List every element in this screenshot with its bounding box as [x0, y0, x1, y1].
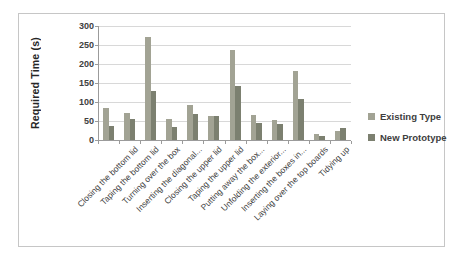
y-axis-title: Required Time (s) — [26, 24, 44, 142]
legend-item: Existing Type — [368, 111, 447, 122]
bar-new-prototype — [172, 127, 178, 140]
bar-new-prototype — [256, 123, 262, 140]
bar-new-prototype — [151, 91, 157, 140]
legend-label: New Prototype — [380, 132, 447, 143]
x-tickmark — [288, 141, 289, 144]
bar-new-prototype — [298, 99, 304, 140]
chart-frame: Required Time (s) 050100150200250300Clos… — [18, 13, 445, 247]
gridline — [98, 83, 351, 84]
y-tick-label: 50 — [62, 116, 94, 126]
gridline — [98, 45, 351, 46]
y-axis-line — [98, 26, 99, 140]
bar-new-prototype — [214, 116, 220, 140]
y-tick-label: 300 — [62, 21, 94, 31]
legend-label: Existing Type — [380, 111, 441, 122]
x-tickmark — [140, 141, 141, 144]
x-tickmark — [119, 141, 120, 144]
x-tickmark — [330, 141, 331, 144]
bar-new-prototype — [277, 124, 283, 140]
gridline — [98, 102, 351, 103]
legend-swatch-icon — [368, 134, 375, 141]
bar-new-prototype — [109, 126, 115, 140]
bar-new-prototype — [235, 86, 241, 140]
legend-swatch-icon — [368, 113, 375, 120]
x-tickmark — [98, 141, 99, 144]
bar-new-prototype — [193, 114, 199, 140]
bar-new-prototype — [340, 128, 346, 140]
x-tickmark — [246, 141, 247, 144]
x-tickmark — [225, 141, 226, 144]
y-tick-label: 200 — [62, 59, 94, 69]
screenshot-canvas: Required Time (s) 050100150200250300Clos… — [0, 0, 460, 258]
gridline — [98, 64, 351, 65]
gridline — [98, 26, 351, 27]
x-tickmark — [161, 141, 162, 144]
y-tick-label: 150 — [62, 78, 94, 88]
x-tickmark — [203, 141, 204, 144]
legend-item: New Prototype — [368, 132, 447, 143]
x-tickmark — [267, 141, 268, 144]
x-tickmark — [351, 141, 352, 144]
y-tick-label: 0 — [62, 135, 94, 145]
y-tick-label: 250 — [62, 40, 94, 50]
bar-new-prototype — [130, 119, 136, 140]
y-tick-label: 100 — [62, 97, 94, 107]
x-tickmark — [182, 141, 183, 144]
x-tickmark — [309, 141, 310, 144]
gridline — [98, 121, 351, 122]
legend: Existing TypeNew Prototype — [368, 111, 447, 153]
bar-new-prototype — [319, 136, 325, 140]
